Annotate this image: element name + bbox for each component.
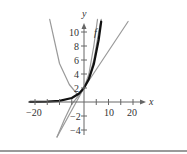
x-tick-label-20: 20: [127, 107, 137, 118]
x-axis-arrow-icon: [140, 100, 146, 105]
y-tick-label-neg2: −2: [70, 111, 81, 122]
x-tick-label-neg20: −20: [26, 107, 42, 118]
y-axis: [82, 23, 87, 135]
y-tick-label-2: 2: [74, 83, 79, 94]
y-tick-label-8: 8: [74, 41, 79, 52]
x-tick-label-10: 10: [104, 107, 114, 118]
y-tick-label-4: 4: [74, 69, 79, 80]
curve-approx-line: [57, 22, 128, 138]
y-tick-label-10: 10: [69, 27, 79, 38]
chart-graph: x y f −20 10 20 10 8 6 4 2 −2 −4: [0, 0, 187, 154]
bottom-divider: [0, 150, 187, 152]
x-axis-label: x: [148, 96, 154, 107]
y-axis-label: y: [81, 8, 87, 19]
x-axis: [28, 100, 146, 105]
y-tick-label-6: 6: [74, 55, 79, 66]
y-tick-label-neg4: −4: [70, 125, 81, 136]
y-axis-arrow-icon: [82, 23, 87, 29]
